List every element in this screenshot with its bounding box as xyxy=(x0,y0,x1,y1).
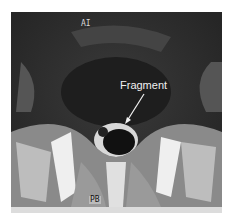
orientation-label-top: AI xyxy=(81,20,91,28)
orientation-label-bottom: PB xyxy=(89,196,101,204)
mri-scan-graphic xyxy=(11,12,222,213)
mri-image: AI Fragment PB xyxy=(11,12,222,213)
fragment-annotation: Fragment xyxy=(120,80,167,91)
